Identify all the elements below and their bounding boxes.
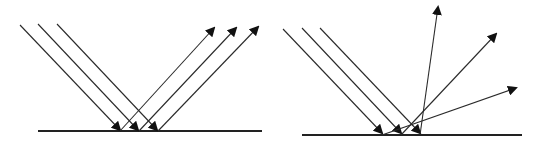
reflected-ray-arrow — [120, 28, 214, 131]
incident-ray-arrow — [302, 28, 401, 133]
diffuse-reflection-figure — [283, 7, 522, 135]
reflected-ray-arrow — [401, 34, 496, 135]
incident-ray-arrow — [283, 29, 382, 133]
specular-reflection-figure — [20, 24, 262, 131]
reflection-diagram — [0, 0, 540, 144]
incident-ray-arrow — [20, 25, 120, 130]
reflected-ray-arrow — [158, 27, 258, 131]
incident-ray-arrow — [38, 24, 138, 130]
incident-ray-arrow — [57, 24, 157, 130]
reflected-ray-arrow — [382, 88, 516, 135]
reflected-ray-arrow — [139, 28, 236, 131]
incident-ray-arrow — [320, 28, 420, 133]
diagram-canvas — [0, 0, 540, 144]
